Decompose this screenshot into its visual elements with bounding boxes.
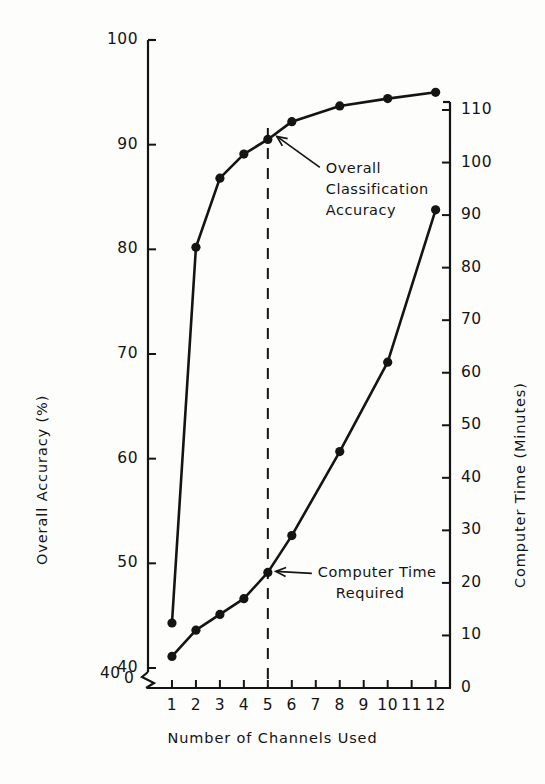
right-axis-tick-70: 70	[461, 310, 482, 328]
x-axis-title: Number of Channels Used	[0, 730, 545, 746]
annotation-arrows	[276, 136, 320, 576]
accuracy-point-12	[431, 88, 440, 97]
right-axis-tick-110: 110	[461, 100, 492, 118]
accuracy-annotation-line-3: Accuracy	[326, 200, 429, 221]
accuracy-point-10	[383, 94, 392, 103]
accuracy-annotation-line-2: Classification	[326, 179, 429, 200]
computer-time-point-12	[431, 205, 440, 214]
y-axis-origin-label: 0	[124, 669, 134, 687]
accuracy-point-6	[287, 117, 296, 126]
time-annotation-line-1: Computer Time	[318, 562, 437, 583]
right-axis-tick-60: 60	[461, 363, 482, 381]
right-axis-tick-90: 90	[461, 205, 482, 223]
time-annotation: Computer Time Required	[318, 562, 437, 603]
x-axis-tick-12: 12	[422, 696, 450, 714]
right-axis-tick-30: 30	[461, 520, 482, 538]
computer-time-point-4	[239, 594, 248, 603]
left-axis-tick-50: 50	[90, 553, 138, 571]
left-axis-title: Overall Accuracy (%)	[34, 395, 50, 565]
accuracy-point-4	[239, 149, 248, 158]
accuracy-annotation-arrow-shaft	[277, 136, 320, 167]
computer-time-point-8	[335, 447, 344, 456]
accuracy-point-3	[215, 174, 224, 183]
time-annotation-line-2: Required	[318, 583, 437, 604]
right-axis-tick-80: 80	[461, 258, 482, 276]
left-axis-tick-100: 100	[90, 30, 138, 48]
y-axis-break-label: 40	[100, 664, 121, 682]
accuracy-annotation-line-1: Overall	[326, 158, 429, 179]
accuracy-point-8	[335, 101, 344, 110]
left-axis-tick-60: 60	[90, 449, 138, 467]
left-axis-tick-90: 90	[90, 135, 138, 153]
accuracy-point-2	[191, 243, 200, 252]
accuracy-point-1	[167, 618, 176, 627]
computer-time-point-10	[383, 358, 392, 367]
left-axis-tick-80: 80	[90, 239, 138, 257]
accuracy-annotation: Overall Classification Accuracy	[326, 158, 429, 220]
right-axis-tick-10: 10	[461, 625, 482, 643]
computer-time-point-5	[263, 568, 272, 577]
right-axis-tick-40: 40	[461, 468, 482, 486]
left-axis-tick-70: 70	[90, 344, 138, 362]
figure-container: 405060708090100 010203040506070809010011…	[0, 0, 545, 784]
accuracy-point-5	[263, 135, 272, 144]
computer-time-point-6	[287, 531, 296, 540]
right-axis-tick-100: 100	[461, 153, 492, 171]
time-annotation-arrow-shaft	[276, 571, 312, 573]
right-axis-title: Computer Time (Minutes)	[512, 382, 528, 588]
computer-time-point-3	[215, 610, 224, 619]
right-axis-tick-0: 0	[461, 678, 471, 696]
computer-time-point-2	[191, 626, 200, 635]
right-axis-tick-20: 20	[461, 573, 482, 591]
computer-time-point-1	[167, 652, 176, 661]
right-axis-tick-50: 50	[461, 415, 482, 433]
